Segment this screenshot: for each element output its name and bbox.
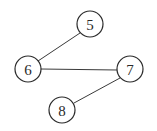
- node-7-label: 7: [126, 62, 134, 78]
- node-6: 6: [15, 56, 41, 82]
- nodes: 5 6 7 8: [15, 11, 143, 123]
- node-5: 5: [77, 11, 103, 37]
- edges: [38, 33, 120, 103]
- node-5-label: 5: [86, 17, 94, 33]
- node-8: 8: [49, 97, 75, 123]
- edge-6-7: [41, 69, 117, 70]
- node-8-label: 8: [58, 103, 66, 119]
- graph-diagram: 5 6 7 8: [0, 0, 157, 131]
- node-7: 7: [117, 56, 143, 82]
- node-6-label: 6: [24, 62, 32, 78]
- edge-5-6: [38, 33, 80, 61]
- edge-7-8: [74, 78, 120, 103]
